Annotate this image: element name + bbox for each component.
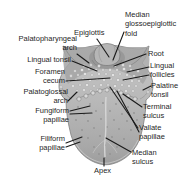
label-palatine-tonsil: Palatine tonsil: [151, 81, 178, 100]
label-foramen-cecum: Foramen cecum: [35, 67, 65, 86]
tongue-anatomy-diagram: Epiglottis Median glossoepiglottic fold …: [0, 0, 192, 182]
label-palatopharyngeal-arch: Palatopharyngeal arch: [19, 34, 77, 53]
label-median-sulcus: Median sulcus: [132, 148, 157, 167]
label-lingual-tonsil: Lingual tonsil: [27, 55, 71, 64]
label-terminal-sulcus: Terminal sulcus: [143, 102, 171, 121]
label-root: Root: [148, 49, 164, 58]
label-apex: Apex: [94, 166, 111, 175]
label-median-glossoepiglottic-fold: Median glossoepiglottic fold: [125, 10, 176, 38]
label-fungiform-papillae: Fungiform papillae: [35, 106, 69, 125]
label-palatoglossal-arch: Palatoglossal arch: [23, 87, 68, 106]
label-lingual-follicles: Lingual follicles: [150, 61, 175, 80]
label-vallate-papillae: Vallate papillae: [139, 123, 165, 142]
label-filiform-papillae: Filiform papillae: [39, 134, 65, 153]
label-epiglottis: Epiglottis: [74, 28, 104, 37]
